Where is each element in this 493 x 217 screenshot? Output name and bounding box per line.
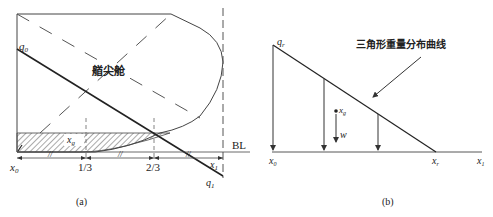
figure-b: qr 三角形重量分布曲线 xg w x0 xr x1 (b) [268, 36, 484, 208]
caption-b: (b) [382, 196, 394, 208]
diagram-canvas: // // // q0 艏尖舱 xg BL x0 1/3 2/3 x1 q1 (… [0, 0, 493, 217]
curve-label: 三角形重量分布曲线 [356, 38, 446, 50]
equal-mark-1: // [47, 150, 53, 159]
triangle-weight-curve [273, 45, 436, 152]
w-label: w [340, 129, 347, 140]
x1-label-b: x1 [476, 155, 484, 167]
caption-a: (a) [76, 196, 87, 208]
equal-mark-2: // [117, 150, 123, 159]
equal-mark-3: // [185, 150, 191, 159]
x0-label: x0 [9, 161, 19, 175]
x1-label: x1 [209, 159, 218, 172]
xg-label: xg [338, 105, 346, 116]
compartment-label: 艏尖舱 [91, 64, 126, 78]
curve-pointer-arrow [373, 57, 421, 97]
hatched-region [17, 133, 170, 152]
qr-label: qr [277, 36, 285, 49]
q1-label: q1 [206, 177, 215, 190]
x0-label-b: x0 [268, 155, 276, 167]
bl-label: BL [232, 139, 246, 151]
xr-label: xr [431, 155, 439, 167]
figure-a: // // // q0 艏尖舱 xg BL x0 1/3 2/3 x1 q1 (… [9, 8, 250, 208]
centroid-dot [334, 109, 338, 113]
one-third-label: 1/3 [78, 161, 93, 173]
q0-label: q0 [19, 40, 29, 54]
hull-outline [17, 14, 223, 152]
two-third-label: 2/3 [146, 161, 161, 173]
